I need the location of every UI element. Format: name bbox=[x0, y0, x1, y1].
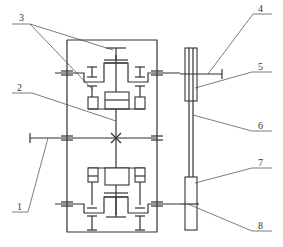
label-4: 4 bbox=[258, 3, 263, 14]
label-2: 2 bbox=[17, 82, 22, 93]
label-7: 7 bbox=[258, 157, 263, 168]
lower-pulley bbox=[180, 177, 199, 230]
upper-pulley bbox=[180, 48, 222, 101]
gear-transmission-diagram: 1 2 3 4 5 6 7 8 bbox=[0, 0, 283, 247]
upper-gear-group bbox=[55, 48, 180, 109]
label-5: 5 bbox=[258, 61, 263, 72]
lower-gear-group bbox=[55, 168, 180, 230]
label-1: 1 bbox=[17, 201, 22, 212]
label-3: 3 bbox=[19, 12, 24, 23]
housing-frame bbox=[67, 40, 157, 232]
input-shaft bbox=[30, 133, 157, 143]
label-6: 6 bbox=[258, 120, 263, 131]
leader-lines bbox=[12, 14, 272, 231]
label-8: 8 bbox=[258, 220, 263, 231]
